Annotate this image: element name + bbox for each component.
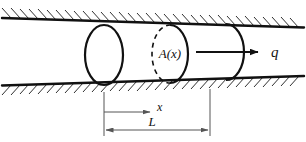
cross-section-area-label: A(x) — [158, 46, 181, 61]
flow-rate-label: q — [271, 44, 279, 60]
figure-container: q A(x) x L — [0, 0, 306, 142]
distance-label: x — [156, 100, 163, 114]
duct-flow-diagram: q A(x) x L — [0, 0, 306, 142]
length-label: L — [147, 114, 155, 129]
